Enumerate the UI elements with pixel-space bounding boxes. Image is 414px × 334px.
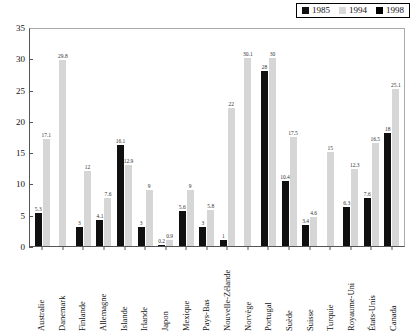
bar-series-container: 5.317.129.83124.17.616.112.9390.20.95.69… [30,29,404,246]
bar-group: 29.8 [53,29,74,246]
bar-value-label: 3 [140,221,143,227]
x-axis-label: Suisse [306,251,315,331]
x-axis-label-cell: Portugal [258,251,279,331]
x-axis-tick-mark [62,246,63,250]
bar-value-label: 15 [327,146,333,152]
bar-1994: 9 [187,190,194,246]
x-axis-label-cell: Japon [155,251,176,331]
x-axis-tick-mark [42,246,43,250]
x-axis-label-cell: Nouvelle-Zélande [217,251,238,331]
bar-value-label: 5.3 [35,207,42,213]
x-axis-label-cell: Danemark [52,251,73,331]
x-axis-label-cell: Canada [382,251,403,331]
y-axis-tick-label: 10 [16,180,25,189]
bar-1994: 16.5 [372,143,379,246]
x-axis-label: Norvège [244,251,253,331]
legend-entry-1985: 1985 [302,6,330,15]
bar-value-label: 3 [201,221,204,227]
bar-group: 1825.1 [382,29,403,246]
bar-1985: 7.6 [364,198,371,246]
y-axis-tick-label: 25 [16,86,25,95]
bar-value-label: 12.9 [124,159,134,165]
bar-1994: 0.9 [166,240,173,246]
bar-value-label: 12.3 [350,163,360,169]
bar-1994: 30 [269,58,276,246]
bar-1994: 22 [228,108,235,246]
bar-1994: 5.8 [207,210,214,246]
bar-value-label: 30 [270,52,276,58]
bar-1994: 25.1 [392,89,399,246]
x-axis-label: Irlande [140,251,149,331]
bar-group: 10.417.5 [279,29,300,246]
x-axis-label: Royaume-Uni [347,251,356,331]
bar-value-label: 0.2 [158,239,165,245]
bar-value-label: 0.9 [166,234,173,240]
bar-1985: 18 [384,133,391,246]
x-axis-label-cell: Suisse [300,251,321,331]
bar-group: 4.17.6 [94,29,115,246]
y-axis: 05101520253035 [0,28,29,247]
bar-group: 30.1 [238,29,259,246]
x-axis-tick-mark [350,246,351,250]
legend-label-1985: 1985 [312,6,330,15]
x-axis-label: Finlande [78,251,87,331]
legend-swatch-1998 [376,7,383,14]
bar-group: 3.44.6 [299,29,320,246]
x-axis-label: Islande [120,251,129,331]
bar-1985: 5.6 [179,211,186,246]
y-axis-tick-label: 5 [21,211,26,220]
bar-1994: 12.3 [351,169,358,246]
bar-1985: 6.3 [343,207,350,246]
bar-value-label: 4.6 [310,211,317,217]
bar-value-label: 7.6 [105,192,112,198]
y-axis-tick-label: 0 [21,243,26,252]
bar-group: 39 [135,29,156,246]
bar-1985: 3.4 [302,225,309,246]
bar-1985: 1 [220,240,227,246]
bar-1985: 3 [76,227,83,246]
bar-1985: 0.2 [158,245,165,246]
bar-1994: 7.6 [104,198,111,246]
y-axis-tick-label: 30 [16,55,25,64]
x-axis-tick-mark [330,246,331,250]
x-axis-label-cell: Finlande [72,251,93,331]
y-axis-tick-label: 20 [16,117,25,126]
bar-value-label: 17.5 [288,131,298,137]
x-axis-label: États-Unis [368,251,377,331]
x-axis-tick-mark [206,246,207,250]
x-axis-tick-mark [186,246,187,250]
legend-label-1994: 1994 [349,6,367,15]
bar-value-label: 5.6 [179,205,186,211]
x-axis-tick-mark [391,246,392,250]
bar-1985: 3 [199,227,206,246]
x-axis-label: Portugal [264,251,273,331]
x-axis-tick-mark [247,246,248,250]
chart-legend: 1985 1994 1998 [296,3,410,18]
legend-swatch-1994 [339,7,346,14]
bar-value-label: 9 [189,184,192,190]
x-axis-label: Australie [37,251,46,331]
bar-group: 122 [217,29,238,246]
x-axis-tick-mark [145,246,146,250]
x-axis-label: Suède [285,251,294,331]
x-axis-tick-mark [371,246,372,250]
x-axis-label: Allemagne [99,251,108,331]
x-axis-tick-mark [103,246,104,250]
x-axis-label-cell: Islande [114,251,135,331]
x-axis-label-cell: Australie [31,251,52,331]
bar-value-label: 1 [222,234,225,240]
x-axis-label: Pays-Bas [202,251,211,331]
bar-value-label: 25.1 [391,83,401,89]
bar-value-label: 3 [78,221,81,227]
bar-chart-figure: 1985 1994 1998 05101520253035 5.317.129.… [0,0,414,334]
x-axis-tick-mark [289,246,290,250]
x-axis-label: Danemark [58,251,67,331]
bar-group: 0.20.9 [155,29,176,246]
bar-group: 5.317.1 [32,29,53,246]
bar-1994: 29.8 [59,60,66,246]
x-axis-tick-mark [124,246,125,250]
bar-1994: 12 [84,171,91,246]
bar-1994: 4.6 [310,217,317,246]
bar-group: 35.8 [197,29,218,246]
bar-value-label: 28 [262,65,268,71]
